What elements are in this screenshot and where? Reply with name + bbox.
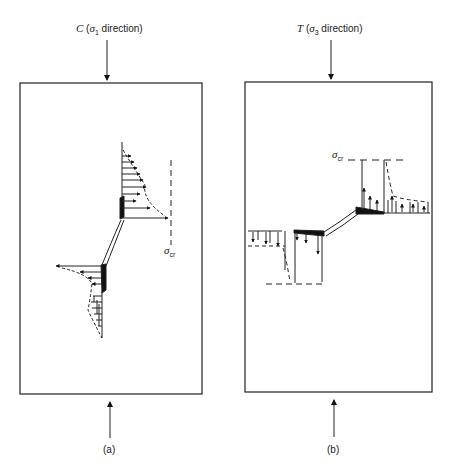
specimen-box-b [245,82,432,392]
panel-b [245,40,432,437]
right-stress-arrows [364,188,424,212]
panel-a [20,40,202,438]
diagram-canvas [0,0,449,470]
lower-hatch [91,292,102,338]
upper-stress-arrows [122,156,168,218]
specimen-box-a [20,83,202,394]
